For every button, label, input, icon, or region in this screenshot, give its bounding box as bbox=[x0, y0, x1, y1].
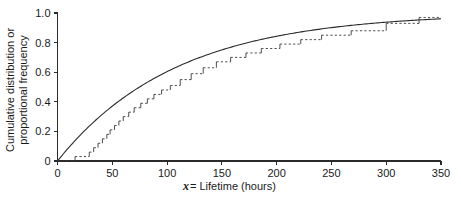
x-axis-tick-labels: 050100150200250300350 bbox=[54, 167, 450, 179]
y-tick-label-4: 0.8 bbox=[35, 37, 50, 49]
y-tick-label-1: 0.2 bbox=[35, 125, 50, 137]
x-axis-title-symbol: x bbox=[182, 179, 189, 193]
y-axis-title: Cumulative distribution or proportional … bbox=[4, 28, 29, 152]
x-tick-label-2: 100 bbox=[158, 167, 176, 179]
y-axis-title-line1: Cumulative distribution or bbox=[4, 28, 16, 152]
y-tick-label-5: 1.0 bbox=[35, 7, 50, 19]
chart-figure: Cumulative distribution or proportional … bbox=[0, 0, 461, 201]
x-tick-label-0: 0 bbox=[54, 167, 60, 179]
x-axis: 050100150200250300350 bbox=[54, 161, 450, 179]
x-axis-ticks bbox=[58, 161, 442, 165]
y-axis-title-line2: proportional frequency bbox=[17, 35, 29, 145]
x-tick-label-7: 350 bbox=[432, 167, 450, 179]
fitted-exponential-curve bbox=[58, 19, 442, 161]
x-axis-title-text: = Lifetime (hours) bbox=[190, 180, 276, 192]
y-tick-label-0: 0 bbox=[44, 155, 50, 167]
x-tick-label-1: 50 bbox=[106, 167, 118, 179]
x-axis-title: x = Lifetime (hours) bbox=[182, 179, 276, 193]
x-tick-label-5: 250 bbox=[322, 167, 340, 179]
x-tick-label-4: 200 bbox=[267, 167, 285, 179]
y-tick-label-2: 0.4 bbox=[35, 96, 50, 108]
y-tick-label-3: 0.6 bbox=[35, 66, 50, 78]
x-tick-label-3: 150 bbox=[213, 167, 231, 179]
y-axis: 00.20.40.60.81.0 bbox=[35, 7, 57, 167]
y-axis-tick-labels: 00.20.40.60.81.0 bbox=[35, 7, 50, 167]
empirical-step-treads bbox=[58, 17, 442, 161]
empirical-step-risers bbox=[75, 17, 419, 161]
chart-canvas: Cumulative distribution or proportional … bbox=[0, 0, 461, 201]
y-axis-ticks bbox=[54, 13, 58, 161]
x-tick-label-6: 300 bbox=[377, 167, 395, 179]
